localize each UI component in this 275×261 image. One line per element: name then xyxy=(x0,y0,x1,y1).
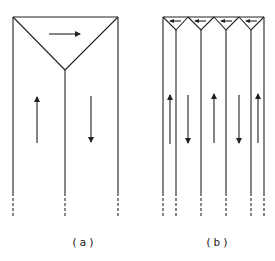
triangle-left-edge xyxy=(13,17,65,70)
panel-a xyxy=(13,17,118,218)
dashed-continuations xyxy=(163,193,264,218)
panel-b-label: (b) xyxy=(205,236,231,249)
triangle-right-edge xyxy=(65,17,118,70)
dashed-continuations xyxy=(13,193,118,218)
panel-b xyxy=(163,17,264,218)
triangle-3 xyxy=(214,17,239,30)
triangle-4 xyxy=(239,17,264,30)
triangle-1 xyxy=(163,17,188,30)
triangle-2 xyxy=(188,17,214,30)
panel-a-label: (a) xyxy=(71,236,97,249)
diagram-canvas xyxy=(0,0,275,261)
